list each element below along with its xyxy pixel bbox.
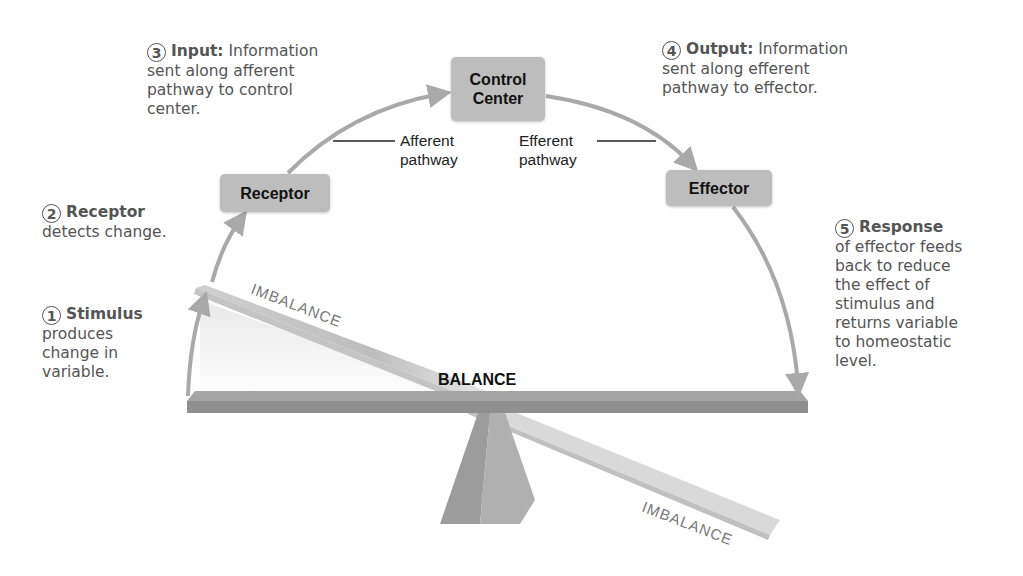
receptor-label: Receptor	[240, 184, 309, 203]
step-text-line: of effector feeds	[835, 238, 962, 257]
control-center-label-2: Center	[473, 89, 524, 108]
step-text-line: change in	[42, 344, 143, 363]
step-heading: Input:	[171, 42, 224, 60]
step-number-badge: 2	[42, 204, 61, 223]
balance-label: BALANCE	[438, 371, 516, 389]
step-text-line: returns variable	[835, 314, 962, 333]
efferent-pathway-word: pathway	[519, 150, 577, 169]
balanced-plank-edge	[187, 401, 808, 413]
step-inline-text: Information	[228, 42, 318, 60]
step-text-line: to homeostatic	[835, 333, 962, 352]
step-heading: Stimulus	[66, 305, 143, 323]
step-text-line: level.	[835, 352, 962, 371]
step-text-line: back to reduce	[835, 257, 962, 276]
afferent-pathway-label: Afferent pathway	[400, 131, 458, 169]
step-number-badge: 3	[147, 43, 166, 62]
afferent-pathway-word: pathway	[400, 150, 458, 169]
step-text-line: sent along afferent	[147, 62, 318, 81]
receptor-box: Receptor	[220, 174, 330, 212]
step-text-line: center.	[147, 100, 318, 119]
step-text-line: variable.	[42, 363, 143, 382]
step-4-output: 4Output: Information sent along efferent…	[662, 40, 848, 98]
step-heading: Output:	[686, 40, 753, 58]
arrow-plank-to-receptor	[212, 220, 240, 282]
step-inline-text: Information	[758, 40, 848, 58]
control-center-label-1: Control	[470, 70, 527, 89]
step-5-response: 5Response of effector feeds back to redu…	[835, 218, 962, 371]
arrow-effector-to-plank	[733, 207, 798, 385]
step-text-line: the effect of	[835, 276, 962, 295]
step-number-badge: 1	[42, 306, 61, 325]
step-text-line: stimulus and	[835, 295, 962, 314]
step-heading: Response	[859, 218, 943, 236]
step-number-badge: 4	[662, 41, 681, 60]
efferent-pathway-label: Efferent pathway	[519, 131, 577, 169]
step-text-line: sent along efferent	[662, 60, 848, 79]
afferent-word: Afferent	[400, 131, 458, 150]
step-heading: Receptor	[66, 203, 145, 221]
step-3-input: 3Input: Information sent along afferent …	[147, 42, 318, 119]
step-text-line: detects change.	[42, 223, 167, 242]
step-text-line: pathway to control	[147, 81, 318, 100]
step-2-receptor: 2Receptor detects change.	[42, 203, 167, 242]
control-center-box: Control Center	[451, 57, 545, 121]
step-text-line: pathway to effector.	[662, 79, 848, 98]
efferent-word: Efferent	[519, 131, 577, 150]
effector-label: Effector	[689, 179, 749, 198]
step-1-stimulus: 1Stimulus produces change in variable.	[42, 305, 143, 382]
step-text-line: produces	[42, 325, 143, 344]
effector-box: Effector	[666, 170, 772, 206]
balanced-plank-top	[187, 391, 808, 401]
step-number-badge: 5	[835, 219, 854, 238]
